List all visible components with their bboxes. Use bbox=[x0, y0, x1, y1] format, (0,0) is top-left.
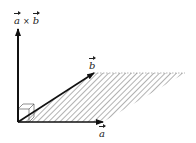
cross-product-label: a×b bbox=[14, 12, 39, 27]
vector-b-label: b bbox=[89, 57, 95, 71]
vector-a-label-text: a bbox=[99, 125, 105, 139]
vector-b-label-text: b bbox=[89, 57, 95, 71]
vector-a-label: a bbox=[99, 125, 105, 139]
cross-label-b: b bbox=[33, 12, 39, 26]
parallelogram-area bbox=[18, 73, 185, 122]
cross-label-a: a bbox=[14, 12, 20, 26]
cross-product-diagram: a×b b a bbox=[0, 0, 196, 143]
cross-operator: × bbox=[20, 17, 33, 26]
